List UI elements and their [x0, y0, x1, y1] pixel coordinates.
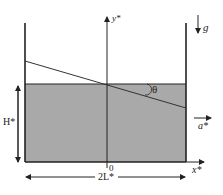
- fluid-region: [25, 84, 186, 162]
- height-label: H*: [3, 117, 15, 127]
- x-axis-label: x*: [192, 165, 201, 175]
- y-axis-label: y*: [112, 14, 121, 23]
- acceleration-label: a*: [198, 121, 208, 131]
- angle-label: θ: [152, 84, 157, 95]
- width-label: 2L*: [98, 172, 114, 182]
- gravity-label: g: [203, 22, 209, 33]
